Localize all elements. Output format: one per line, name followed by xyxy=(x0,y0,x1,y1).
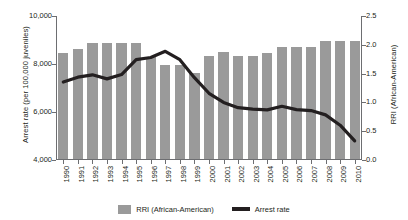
y-axis-left-tickmark xyxy=(52,16,56,17)
x-axis-tick-label: 1993 xyxy=(106,166,115,183)
x-axis-tick-label: 2005 xyxy=(280,166,289,183)
x-axis-tick-label: 2001 xyxy=(222,166,231,183)
x-axis-tick-label: 2003 xyxy=(251,166,260,183)
y-axis-right-tick-label: 0.0 xyxy=(366,156,376,164)
y-axis-right-tick-label: 2.5 xyxy=(366,12,376,20)
x-axis-tickmark xyxy=(355,160,356,164)
y-axis-left-tick-label: 8,000 xyxy=(33,60,52,68)
x-axis-tickmark xyxy=(63,160,64,164)
x-axis-tickmark xyxy=(224,160,225,164)
y-axis-left-tickmark xyxy=(52,64,56,65)
x-axis-tickmark xyxy=(209,160,210,164)
x-axis-tick-label: 2002 xyxy=(237,166,246,183)
y-axis-right-tick-label: 0.5 xyxy=(366,127,376,135)
y-axis-right-tickmark xyxy=(362,45,366,46)
y-axis-left-tickmark xyxy=(52,112,56,113)
x-axis-tickmark xyxy=(122,160,123,164)
x-axis-tickmark xyxy=(282,160,283,164)
x-axis-tickmark xyxy=(238,160,239,164)
x-axis-tick-labels: 1990199119921993199419951996199719981999… xyxy=(56,166,362,200)
legend-label-arrest-rate: Arrest rate xyxy=(255,205,290,214)
x-axis-tickmark xyxy=(340,160,341,164)
x-axis-tickmark xyxy=(136,160,137,164)
y-axis-right-tick-label: 1.0 xyxy=(366,98,376,106)
x-axis-tickmark xyxy=(151,160,152,164)
x-axis-tickmarks xyxy=(56,160,362,165)
plot-area xyxy=(56,16,362,160)
x-axis-tickmark xyxy=(107,160,108,164)
y-axis-right-tick-label: 2.0 xyxy=(366,41,376,49)
x-axis-tickmark xyxy=(78,160,79,164)
legend-bar-swatch-icon xyxy=(118,205,131,214)
x-axis-tick-label: 1991 xyxy=(76,166,85,183)
chart-figure: Arrest rate (per 100,000 juveniles) RRI … xyxy=(0,0,408,220)
legend-line-swatch-icon xyxy=(232,207,250,211)
x-axis-tickmark xyxy=(180,160,181,164)
x-axis-tickmark xyxy=(194,160,195,164)
y-axis-right-tick-labels: 0.00.51.01.52.02.5 xyxy=(366,0,402,220)
y-axis-right-tickmark xyxy=(362,160,366,161)
x-axis-tick-label: 1997 xyxy=(164,166,173,183)
x-axis-tick-label: 1996 xyxy=(149,166,158,183)
x-axis-tick-label: 1992 xyxy=(91,166,100,183)
x-axis-tick-label: 1994 xyxy=(120,166,129,183)
x-axis-tickmark xyxy=(326,160,327,164)
x-axis-tick-label: 2010 xyxy=(353,166,362,183)
plot-frame xyxy=(56,16,362,160)
y-axis-right-tickmark xyxy=(362,16,366,17)
x-axis-tick-label: 1999 xyxy=(193,166,202,183)
x-axis-tickmark xyxy=(165,160,166,164)
x-axis-tick-label: 2007 xyxy=(310,166,319,183)
x-axis-tickmark xyxy=(296,160,297,164)
y-axis-right-tickmark xyxy=(362,102,366,103)
x-axis-tick-label: 2006 xyxy=(295,166,304,183)
y-axis-right-tickmark xyxy=(362,131,366,132)
x-axis-tick-label: 2009 xyxy=(339,166,348,183)
x-axis-tickmark xyxy=(253,160,254,164)
y-axis-right-tick-label: 1.5 xyxy=(366,70,376,78)
x-axis-tickmark xyxy=(311,160,312,164)
y-axis-left-tick-label: 10,000 xyxy=(29,12,52,20)
y-axis-left-tick-labels: 4,0006,0008,00010,000 xyxy=(14,0,52,220)
legend-item-rri: RRI (African-American) xyxy=(118,205,214,214)
x-axis-tick-label: 2004 xyxy=(266,166,275,183)
legend-label-rri: RRI (African-American) xyxy=(136,205,214,214)
x-axis-tick-label: 1995 xyxy=(135,166,144,183)
x-axis-tick-label: 2000 xyxy=(208,166,217,183)
x-axis-tickmark xyxy=(267,160,268,164)
chart-legend: RRI (African-American) Arrest rate xyxy=(0,201,408,217)
x-axis-tickmark xyxy=(92,160,93,164)
y-axis-left-tick-label: 6,000 xyxy=(33,108,52,116)
x-axis-tick-label: 1998 xyxy=(178,166,187,183)
x-axis-tick-label: 2008 xyxy=(324,166,333,183)
y-axis-right-tickmark xyxy=(362,74,366,75)
legend-item-arrest-rate: Arrest rate xyxy=(232,205,290,214)
y-axis-left-tick-label: 4,000 xyxy=(33,156,52,164)
x-axis-tick-label: 1990 xyxy=(62,166,71,183)
